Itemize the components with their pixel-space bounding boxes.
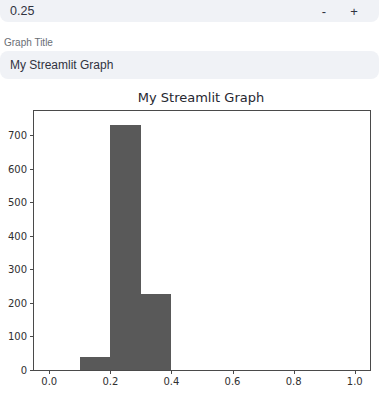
y-tick-label: 0 bbox=[21, 365, 27, 376]
y-tick-mark bbox=[30, 303, 34, 304]
x-tick-mark bbox=[294, 370, 295, 374]
y-tick-mark bbox=[30, 135, 34, 136]
chart-figure: My Streamlit Graph 0.00.20.40.60.81.0010… bbox=[0, 85, 379, 400]
x-tick-label: 1.0 bbox=[347, 376, 363, 387]
y-tick-label: 600 bbox=[8, 163, 27, 174]
x-tick-mark bbox=[233, 370, 234, 374]
y-tick-label: 700 bbox=[8, 130, 27, 141]
y-tick-label: 400 bbox=[8, 230, 27, 241]
decrement-button[interactable]: - bbox=[309, 0, 339, 22]
y-tick-mark bbox=[30, 169, 34, 170]
x-tick-label: 0.2 bbox=[102, 376, 118, 387]
y-tick-mark bbox=[30, 269, 34, 270]
y-tick-mark bbox=[30, 370, 34, 371]
y-tick-mark bbox=[30, 202, 34, 203]
graph-title-label: Graph Title bbox=[4, 37, 53, 48]
x-tick-label: 0.6 bbox=[225, 376, 241, 387]
number-input[interactable]: 0.25 - + bbox=[0, 0, 379, 22]
y-tick-label: 300 bbox=[8, 264, 27, 275]
number-input-value[interactable]: 0.25 bbox=[10, 0, 309, 22]
y-tick-label: 500 bbox=[8, 197, 27, 208]
y-tick-label: 100 bbox=[8, 331, 27, 342]
y-tick-label: 200 bbox=[8, 297, 27, 308]
plot-area: 0.00.20.40.60.81.00100200300400500600700 bbox=[33, 110, 371, 371]
x-tick-mark bbox=[49, 370, 50, 374]
chart-title: My Streamlit Graph bbox=[33, 90, 369, 105]
y-tick-mark bbox=[30, 236, 34, 237]
x-tick-label: 0.0 bbox=[41, 376, 57, 387]
y-tick-mark bbox=[30, 336, 34, 337]
increment-button[interactable]: + bbox=[339, 0, 369, 22]
x-tick-label: 0.8 bbox=[286, 376, 302, 387]
histogram-bar bbox=[141, 294, 172, 370]
x-tick-label: 0.4 bbox=[164, 376, 180, 387]
x-tick-mark bbox=[110, 370, 111, 374]
x-tick-mark bbox=[355, 370, 356, 374]
graph-title-input[interactable] bbox=[0, 51, 379, 79]
histogram-bar bbox=[110, 125, 141, 370]
x-tick-mark bbox=[171, 370, 172, 374]
histogram-bar bbox=[80, 357, 111, 370]
